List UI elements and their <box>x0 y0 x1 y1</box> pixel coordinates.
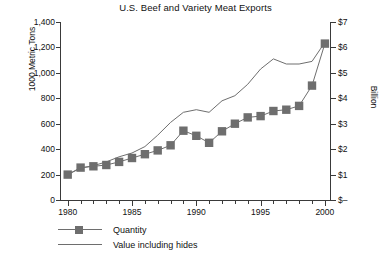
y-axis-right-tick-label: $5 <box>338 69 347 77</box>
data-point-marker <box>256 112 264 120</box>
legend-label-value: Value including hides <box>102 240 197 250</box>
x-axis-tick <box>81 201 82 204</box>
data-point-marker <box>179 127 187 135</box>
chart-figure: U.S. Beef and Variety Meat Exports 02004… <box>0 0 391 257</box>
y-axis-right-tick <box>331 124 336 125</box>
data-point-marker <box>244 113 252 121</box>
data-point-marker <box>128 154 136 162</box>
y-axis-left-tick-label: 200 <box>41 171 55 179</box>
y-axis-right-labels: $–$1$2$3$4$5$6$7 <box>338 0 378 257</box>
x-axis-tick <box>286 201 287 204</box>
y-axis-right-title: Billion <box>369 75 379 119</box>
x-axis-tick <box>183 201 184 204</box>
y-axis-right-tick <box>331 47 336 48</box>
y-axis-right-tick-label: $4 <box>338 94 347 102</box>
chart-title: U.S. Beef and Variety Meat Exports <box>0 2 391 13</box>
data-point-marker <box>231 120 239 128</box>
x-axis-tick <box>248 201 249 204</box>
chart-legend: Quantity Value including hides <box>58 222 318 252</box>
data-point-marker <box>308 81 316 89</box>
data-point-marker <box>321 39 329 47</box>
data-point-marker <box>282 106 290 114</box>
x-axis-tick <box>93 201 94 204</box>
data-point-marker <box>192 132 200 140</box>
x-axis-tick <box>106 201 107 204</box>
x-axis-tick <box>273 201 274 204</box>
y-axis-left-tick-label: 400 <box>41 145 55 153</box>
y-axis-right-tick <box>331 200 336 201</box>
y-axis-right-tick-label: $6 <box>338 43 347 51</box>
data-point-marker <box>141 150 149 158</box>
x-axis-tick <box>132 201 133 206</box>
x-axis-tick <box>312 201 313 204</box>
legend-item-quantity: Quantity <box>58 222 318 237</box>
legend-key-value <box>58 239 102 251</box>
y-axis-right-tick-label: $7 <box>338 18 347 26</box>
legend-label-quantity: Quantity <box>102 225 147 235</box>
y-axis-right-tick <box>331 22 336 23</box>
legend-line-icon <box>58 244 102 245</box>
y-axis-left-tick-label: 800 <box>41 94 55 102</box>
x-axis-tick <box>171 201 172 204</box>
legend-item-value: Value including hides <box>58 237 318 252</box>
x-axis-tick <box>261 201 262 206</box>
y-axis-right-tick-label: $3 <box>338 120 347 128</box>
data-point-marker <box>64 170 72 178</box>
y-axis-right-tick-label: $– <box>338 196 347 204</box>
y-axis-right-tick <box>331 149 336 150</box>
x-axis-tick-label: 1980 <box>48 208 88 217</box>
data-point-marker <box>154 146 162 154</box>
legend-square-icon <box>75 226 83 234</box>
y-axis-left-tick-label: 600 <box>41 120 55 128</box>
data-point-marker <box>218 127 226 135</box>
x-axis-tick <box>299 201 300 204</box>
y-axis-right-tick <box>331 175 336 176</box>
x-axis-tick <box>222 201 223 204</box>
x-axis-tick <box>158 201 159 204</box>
x-axis-tick <box>235 201 236 204</box>
x-axis-tick-label: 1985 <box>112 208 152 217</box>
x-axis-tick <box>325 201 326 206</box>
x-axis-tick <box>145 201 146 204</box>
data-point-marker <box>205 139 213 147</box>
x-axis-tick-label: 1990 <box>176 208 216 217</box>
x-axis-tick-label: 1995 <box>241 208 281 217</box>
y-axis-right-tick <box>331 98 336 99</box>
series-quantity-markers <box>64 39 330 178</box>
legend-key-quantity <box>58 224 102 236</box>
y-axis-left-tick-label: 0 <box>50 196 55 204</box>
y-axis-left-tick <box>56 200 60 201</box>
x-axis-tick <box>196 201 197 206</box>
data-point-marker <box>166 141 174 149</box>
data-point-marker <box>89 162 97 170</box>
data-point-marker <box>102 161 110 169</box>
x-axis-tick <box>209 201 210 204</box>
data-point-marker <box>76 163 84 171</box>
y-axis-right-tick-label: $1 <box>338 171 347 179</box>
x-axis-tick-label: 2000 <box>305 208 345 217</box>
x-axis-tick <box>119 201 120 204</box>
data-point-marker <box>115 158 123 166</box>
y-axis-right-tick <box>331 73 336 74</box>
x-axis-tick <box>68 201 69 206</box>
data-point-marker <box>295 102 303 110</box>
y-axis-right-tick-label: $2 <box>338 145 347 153</box>
y-axis-left-title: 1000 Metric Tons <box>27 0 37 119</box>
data-point-marker <box>269 107 277 115</box>
plot-area <box>60 22 330 200</box>
